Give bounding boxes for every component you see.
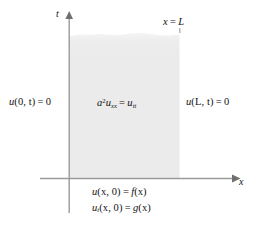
x-equals-l-label: x = L xyxy=(163,17,184,28)
t-axis-label: t xyxy=(56,9,59,19)
initial-condition-velocity-label: ut(x, 0) = g(x) xyxy=(92,203,151,214)
x-axis-label: x xyxy=(239,177,244,187)
boundary-condition-right-label: u(L, t) = 0 xyxy=(186,97,229,108)
initial-condition-position-label: u(x, 0) = f(x) xyxy=(92,187,147,198)
t-axis-arrowhead xyxy=(65,11,73,19)
boundary-condition-left-label: u(0, t) = 0 xyxy=(9,97,51,108)
wave-equation-domain-figure: t x x = L u(0, t) = 0 u(L, t) = 0 a2uxx … xyxy=(0,0,256,230)
pde-label: a2uxx = utt xyxy=(97,98,136,110)
